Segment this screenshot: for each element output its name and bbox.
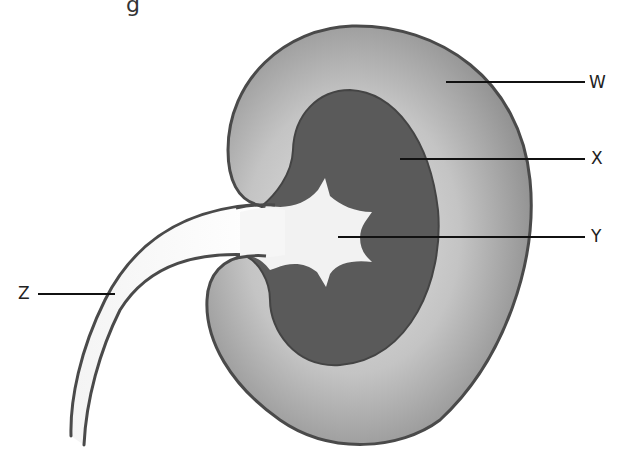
leader-line-w <box>446 81 585 83</box>
label-y: Y <box>591 228 601 245</box>
leader-line-z <box>38 293 115 295</box>
leader-line-x <box>400 158 585 160</box>
label-x: X <box>591 150 603 167</box>
leader-line-y <box>338 236 585 238</box>
cropped-title-fragment: g <box>126 0 140 17</box>
label-w: W <box>589 74 606 91</box>
label-z: Z <box>18 285 30 302</box>
